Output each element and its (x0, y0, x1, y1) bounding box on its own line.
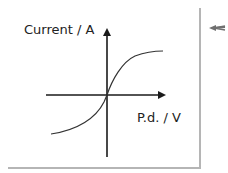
x-axis-label: P.d. / V (137, 110, 181, 125)
left-arrow-icon (209, 25, 225, 31)
iv-graph: Current / A P.d. / V (0, 0, 228, 173)
y-axis-label: Current / A (24, 22, 94, 37)
